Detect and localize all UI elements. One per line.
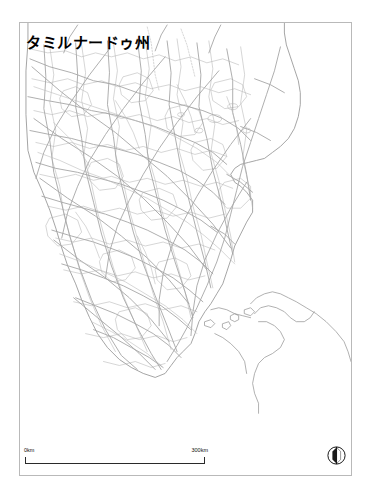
map-canvas xyxy=(20,23,351,475)
scale-rule xyxy=(25,457,205,464)
map-title: タミルナードゥ州 xyxy=(26,31,150,52)
scale-start-label: 0km xyxy=(24,447,34,453)
scale-tick-end xyxy=(204,457,205,464)
scale-bar: 0km 300km xyxy=(24,447,206,467)
map-frame xyxy=(19,22,352,476)
north-arrow-icon xyxy=(326,445,347,466)
scale-end-label: 300km xyxy=(191,447,208,453)
scale-rule-line xyxy=(25,463,205,464)
map-figure: タミルナードゥ州 0km 300km xyxy=(0,0,368,497)
scale-tick-start xyxy=(25,457,26,464)
